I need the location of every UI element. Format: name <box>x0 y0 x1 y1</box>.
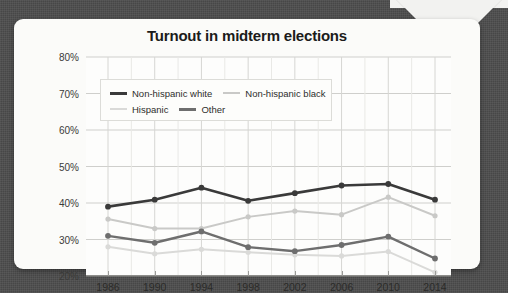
data-point <box>105 233 111 239</box>
x-axis-tick-label: 2010 <box>377 281 400 293</box>
chart-card: Turnout in midterm elections 20%30%40%50… <box>14 19 480 269</box>
data-point <box>432 256 438 262</box>
legend-row-2: Hispanic Other <box>110 101 324 117</box>
data-point <box>152 197 158 203</box>
legend-item-other[interactable]: Other <box>179 104 225 115</box>
data-point <box>199 247 204 252</box>
x-axis-tick-label: 2014 <box>423 281 446 293</box>
data-point <box>339 242 345 248</box>
legend-row-1: Non-hispanic white Non-hispanic black <box>110 85 324 101</box>
x-axis-tick <box>248 271 249 276</box>
legend-swatch-icon <box>179 108 196 111</box>
legend-swatch-icon <box>110 92 127 95</box>
y-axis-tick-label: 70% <box>59 88 79 99</box>
data-point <box>245 198 251 204</box>
legend-label: Other <box>201 104 225 115</box>
x-axis-tick <box>108 271 109 276</box>
chart-legend: Non-hispanic white Non-hispanic black Hi… <box>100 79 332 121</box>
data-point <box>105 216 110 221</box>
x-axis-tick-label: 2002 <box>283 281 306 293</box>
data-point <box>339 253 344 258</box>
legend-swatch-icon <box>110 108 127 110</box>
data-point <box>292 208 297 213</box>
data-point <box>292 190 298 196</box>
legend-label: Non-hispanic black <box>245 88 325 99</box>
x-axis-tick-label: 1990 <box>143 281 166 293</box>
legend-item-hispanic[interactable]: Hispanic <box>110 104 168 115</box>
x-axis-line <box>86 275 451 276</box>
y-axis-tick-label: 60% <box>59 125 79 136</box>
data-point <box>386 249 391 254</box>
data-point <box>386 195 391 200</box>
y-axis-tick-label: 50% <box>59 161 79 172</box>
legend-swatch-icon <box>223 92 240 94</box>
data-point <box>339 183 345 189</box>
data-point <box>152 226 157 231</box>
x-axis-tick-label: 2006 <box>330 281 353 293</box>
y-axis-tick-label: 80% <box>59 52 79 63</box>
page-title: Turnout in midterm elections <box>14 27 480 44</box>
data-point <box>292 248 298 254</box>
data-point <box>105 244 110 249</box>
x-axis-tick <box>155 271 156 276</box>
data-point <box>199 185 205 191</box>
data-point <box>385 181 391 187</box>
x-axis-tick-label: 1998 <box>236 281 259 293</box>
legend-item-non-hispanic-black[interactable]: Non-hispanic black <box>223 88 325 99</box>
y-axis-tick-label: 20% <box>59 271 79 282</box>
x-axis-tick <box>435 271 436 276</box>
data-point <box>339 212 344 217</box>
legend-item-non-hispanic-white[interactable]: Non-hispanic white <box>110 88 212 99</box>
x-axis-tick <box>388 271 389 276</box>
data-point <box>152 251 157 256</box>
data-point <box>199 229 205 235</box>
x-axis-tick-label: 1994 <box>190 281 213 293</box>
data-point <box>245 244 251 250</box>
x-axis-tick <box>295 271 296 276</box>
data-point <box>432 213 437 218</box>
data-point <box>105 204 111 210</box>
y-axis-tick-label: 40% <box>59 198 79 209</box>
data-point <box>385 234 391 240</box>
data-point <box>246 214 251 219</box>
x-axis-tick <box>201 271 202 276</box>
x-axis-tick-label: 1986 <box>96 281 119 293</box>
data-point <box>152 240 158 246</box>
x-axis-tick <box>342 271 343 276</box>
legend-label: Hispanic <box>132 104 168 115</box>
data-point <box>432 197 438 203</box>
y-axis-tick-label: 30% <box>59 234 79 245</box>
data-point <box>246 250 251 255</box>
series-line-non-hispanic-white <box>108 184 435 207</box>
legend-label: Non-hispanic white <box>132 88 212 99</box>
